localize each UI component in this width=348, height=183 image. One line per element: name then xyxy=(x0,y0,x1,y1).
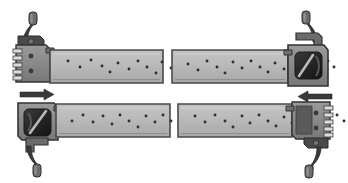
strap-perforation-dot xyxy=(102,115,105,118)
lever-pivot-pin-icon xyxy=(313,140,318,145)
strap-perforation-dot xyxy=(250,60,253,63)
lever-pivot-pin-icon xyxy=(28,39,33,44)
strap-perforation-dot xyxy=(90,59,93,62)
strap-perforation-dot xyxy=(241,67,244,70)
lever-knob-highlight xyxy=(31,14,33,23)
figure-background xyxy=(0,0,348,183)
strap-perforation-dot xyxy=(101,65,104,68)
strap-band xyxy=(178,104,292,137)
strap-perforation-dot xyxy=(283,116,286,119)
strap-perforation-dot xyxy=(249,122,252,125)
strap-perforation-dot xyxy=(145,115,148,118)
strap-perforation-dot xyxy=(128,120,131,123)
strap-perforation-dot xyxy=(206,60,209,63)
strap-perforation-dot xyxy=(267,120,270,123)
strap-perforation-dot xyxy=(274,62,277,65)
strap-perforation-dot xyxy=(232,126,235,129)
strap-perforation-dot xyxy=(117,62,120,65)
lever-knob-highlight xyxy=(307,167,309,176)
strap-perforation-dot xyxy=(343,120,346,123)
strap-perforation-dot xyxy=(119,114,122,117)
strap-perforation-dot xyxy=(197,69,200,72)
strap-perforation-dot xyxy=(137,126,140,129)
strap-perforation-dot xyxy=(258,114,261,117)
strap-perforation-dot xyxy=(154,121,157,124)
strap-perforation-dot xyxy=(214,114,217,117)
strap-perforation-dot xyxy=(216,66,219,69)
strap-perforation-dot xyxy=(241,115,244,118)
connector-inner-face xyxy=(296,106,312,134)
strap-perforation-dot xyxy=(82,114,85,117)
body-shoulder-tab xyxy=(286,106,294,111)
strap-perforation-dot xyxy=(79,66,82,69)
lever-knob-highlight xyxy=(35,166,37,175)
strap-perforation-dot xyxy=(336,114,339,117)
body-stud-icon xyxy=(29,69,34,74)
strap-perforation-dot xyxy=(146,66,149,69)
strap-perforation-dot xyxy=(92,121,95,124)
strap-perforation-dot xyxy=(275,125,278,128)
strap-perforation-dot xyxy=(162,114,165,117)
strap-perforation-dot xyxy=(161,61,164,64)
strap-perforation-dot xyxy=(194,115,197,118)
lever-knob-icon xyxy=(29,12,37,25)
strap-perforation-dot xyxy=(283,68,286,71)
strap-perforation-dot xyxy=(71,120,74,123)
strap-perforation-dot xyxy=(67,60,70,63)
strap-perforation-dot xyxy=(155,72,158,75)
strap-perforation-dot xyxy=(232,61,235,64)
strap-perforation-dot xyxy=(224,72,227,75)
body-stud-icon xyxy=(314,111,319,116)
diagram-canvas xyxy=(0,0,348,183)
strap-perforation-dot xyxy=(111,123,114,126)
strap-perforation-dot xyxy=(204,121,207,124)
strap-band xyxy=(172,50,288,83)
strap-perforation-dot xyxy=(333,66,336,69)
strap-perforation-dot xyxy=(170,120,173,123)
strap-perforation-dot xyxy=(259,66,262,69)
strap-perforation-dot xyxy=(224,120,227,123)
lever-knob-highlight xyxy=(304,13,306,22)
body-shoulder-tab xyxy=(284,50,292,55)
strap-perforation-dot xyxy=(137,60,140,63)
strap-perforation-dot xyxy=(109,71,112,74)
strap-perforation-dot xyxy=(267,71,270,74)
strap-perforation-dot xyxy=(128,68,131,71)
lever-knob-icon xyxy=(33,164,41,177)
connector-diagram-figure: Connector strap assembly mating diagram … xyxy=(0,0,348,183)
strap-perforation-dot xyxy=(187,63,190,66)
body-stud-icon xyxy=(314,126,319,131)
lever-knob-icon xyxy=(305,165,313,178)
body-stud-icon xyxy=(29,54,34,59)
lever-knob-icon xyxy=(302,11,310,24)
